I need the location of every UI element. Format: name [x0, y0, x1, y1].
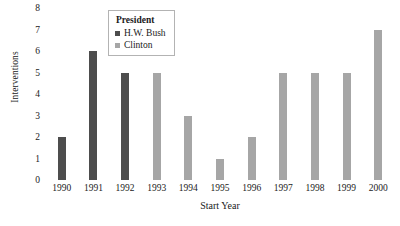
bar-chart: Interventions 876543210 1990199119921993… [0, 0, 400, 226]
bar [374, 30, 382, 181]
legend-item-clinton: Clinton [115, 39, 166, 51]
x-tick-label: 1995 [203, 182, 237, 194]
y-axis-tick-labels: 876543210 [24, 8, 40, 180]
x-tick-label: 2000 [361, 182, 395, 194]
bar [89, 51, 97, 180]
x-axis-title: Start Year [46, 200, 394, 211]
x-tick-label: 1996 [235, 182, 269, 194]
bar [279, 73, 287, 181]
y-tick-label: 1 [26, 154, 40, 164]
bar-slot [331, 8, 363, 180]
bar [248, 137, 256, 180]
y-tick-label: 5 [26, 68, 40, 78]
bar-slot [204, 8, 236, 180]
bar-slot [299, 8, 331, 180]
y-tick-label: 2 [26, 132, 40, 142]
bar-slot [362, 8, 394, 180]
bar [121, 73, 129, 181]
legend-label-clinton: Clinton [124, 39, 153, 51]
bar [343, 73, 351, 181]
legend-item-bush: H.W. Bush [115, 27, 166, 39]
legend-swatch-icon-clinton [115, 43, 120, 48]
bar [216, 159, 224, 181]
legend-label-bush: H.W. Bush [124, 27, 166, 39]
x-tick-label: 1992 [108, 182, 142, 194]
y-tick-label: 6 [26, 46, 40, 56]
bar [184, 116, 192, 181]
bar-slot [46, 8, 78, 180]
x-axis-tick-labels: 1990199119921993199419951996199719981999… [46, 182, 394, 196]
bar [58, 137, 66, 180]
x-tick-label: 1997 [266, 182, 300, 194]
y-tick-label: 3 [26, 111, 40, 121]
y-axis-title: Interventions [4, 0, 26, 190]
bar-slot [267, 8, 299, 180]
x-tick-label: 1990 [45, 182, 79, 194]
legend-title: President [115, 14, 166, 26]
legend-swatch-icon-bush [115, 31, 120, 36]
y-tick-label: 8 [26, 3, 40, 13]
plot-area [46, 8, 394, 180]
bar [311, 73, 319, 181]
y-tick-label: 7 [26, 25, 40, 35]
x-tick-label: 1994 [171, 182, 205, 194]
x-tick-label: 1991 [76, 182, 110, 194]
x-tick-label: 1993 [140, 182, 174, 194]
legend: President H.W. Bush Clinton [108, 10, 175, 56]
bar-slot [173, 8, 205, 180]
bar-slot [78, 8, 110, 180]
bar [153, 73, 161, 181]
bar-slot [236, 8, 268, 180]
x-tick-label: 1998 [298, 182, 332, 194]
x-tick-label: 1999 [330, 182, 364, 194]
y-tick-label: 4 [26, 89, 40, 99]
y-tick-label: 0 [26, 175, 40, 185]
